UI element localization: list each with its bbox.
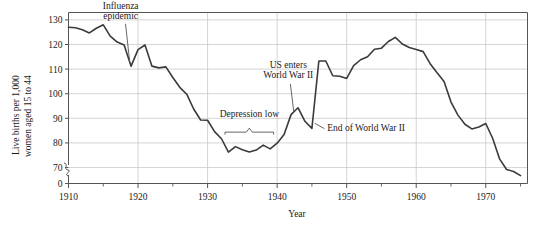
annotation-label-line1: Depression low — [220, 109, 280, 119]
x-tick-label: 1950 — [337, 192, 356, 202]
y-tick-label: 90 — [53, 114, 63, 124]
birth-rate-line-chart: Live births per 1,000 women aged 15 to 4… — [0, 0, 543, 225]
annotation-label-line1: Influenza — [103, 1, 140, 11]
annotation-label-line2: epidemic — [103, 11, 138, 21]
y-tick-label: 120 — [48, 40, 63, 50]
annotation-end-of-wwii: End of World War II — [315, 123, 405, 133]
x-tick-label: 1940 — [268, 192, 287, 202]
y-tick-label: 100 — [48, 89, 63, 99]
chart-container: Live births per 1,000 women aged 15 to 4… — [0, 0, 543, 225]
x-axis-title: Year — [288, 209, 306, 219]
y-tick-label: 110 — [49, 65, 63, 75]
x-tick-label: 1920 — [129, 192, 148, 202]
annotation-label-line1: US enters — [270, 60, 308, 70]
x-tick-label: 1930 — [198, 192, 217, 202]
y-tick-label: 70 — [53, 163, 63, 173]
y-tick-label: 80 — [53, 138, 63, 148]
y-tick-label: 0 — [58, 179, 63, 189]
y-tick-label: 130 — [48, 15, 63, 25]
y-axis-title-line1: Live births per 1,000 — [11, 75, 21, 155]
y-axis-title-line2: women aged 15 to 44 — [23, 75, 33, 157]
x-tick-label: 1910 — [59, 192, 78, 202]
annotation-label-line1: End of World War II — [327, 123, 405, 133]
x-tick-label: 1970 — [476, 192, 495, 202]
annotation-label-line2: World War II — [263, 70, 313, 80]
x-tick-label: 1960 — [407, 192, 426, 202]
